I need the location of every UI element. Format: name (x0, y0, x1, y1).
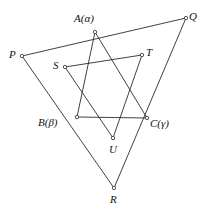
triangle-STU-edge-TU (113, 55, 142, 138)
outer-edge-PQ (22, 18, 186, 56)
segment-layer (22, 18, 186, 188)
point-label-Q: Q (189, 11, 197, 22)
triangle-STU-edge-ST (65, 55, 142, 67)
vertex-U (111, 136, 114, 139)
vertex-Q (184, 16, 187, 19)
vertex-P (20, 54, 23, 57)
geometry-canvas (0, 0, 204, 213)
vertex-C (145, 116, 148, 119)
vertex-A (93, 30, 96, 33)
outer-edge-PR (22, 56, 114, 188)
triangle-ABC-edge-BC (77, 117, 147, 118)
point-label-R: R (110, 194, 117, 205)
triangle-ABC-edge-CA (95, 32, 147, 118)
vertex-layer (20, 16, 187, 189)
point-label-P: P (9, 49, 16, 60)
point-label-S: S (53, 60, 59, 71)
vertex-S (63, 65, 66, 68)
point-label-A: A(α) (74, 13, 94, 24)
vertex-R (112, 186, 115, 189)
point-label-C: C(γ) (150, 118, 169, 129)
vertex-B (75, 115, 78, 118)
triangle-ABC-edge-AB (77, 32, 95, 117)
point-label-U: U (109, 144, 117, 155)
geometry-figure: A(α) B(β) C(γ) P Q R S T U (0, 0, 204, 213)
vertex-T (140, 53, 143, 56)
point-label-B: B(β) (38, 117, 58, 128)
point-label-T: T (146, 47, 152, 58)
